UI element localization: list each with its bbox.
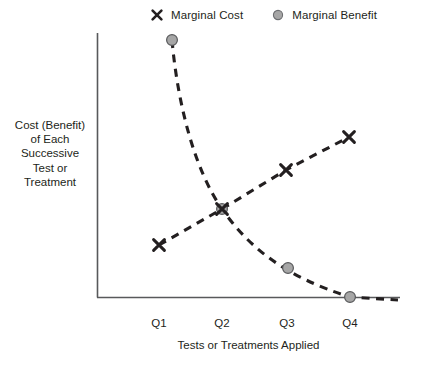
data-point-benefit-q3 (283, 263, 294, 274)
x-tick-label-q4: Q4 (330, 317, 370, 329)
data-point-cost-q1 (154, 240, 165, 251)
data-point-benefit-q1 (167, 35, 178, 46)
data-point-cost-q4 (344, 132, 355, 143)
chart-container: Marginal Cost Marginal Benefit Cost (Ben… (0, 0, 439, 368)
data-point-benefit-q4 (345, 292, 356, 303)
x-tick-label-q2: Q2 (202, 317, 242, 329)
x-tick-label-q3: Q3 (267, 317, 307, 329)
data-point-cost-q3 (281, 165, 292, 176)
x-tick-label-q1: Q1 (139, 317, 179, 329)
x-axis-title: Tests or Treatments Applied (97, 339, 400, 351)
marginal-cost-line (159, 137, 349, 245)
plot-area (0, 0, 439, 368)
